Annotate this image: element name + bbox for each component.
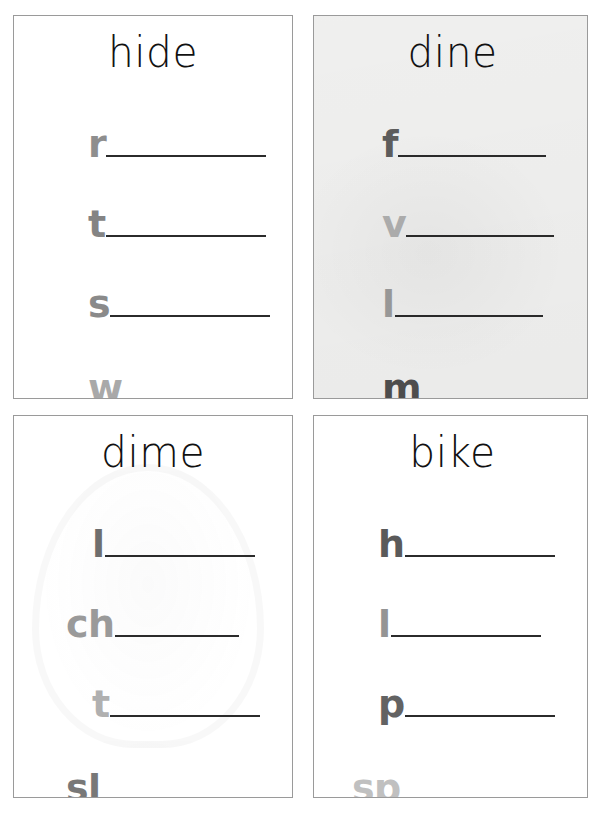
writing-blank-line[interactable] (406, 235, 554, 237)
prompt-row: l (314, 266, 587, 322)
letter-prefix: sp (352, 771, 401, 798)
letter-prefix: s (88, 287, 110, 322)
letter-prefix: f (382, 127, 398, 162)
card-title-hide: hide (18, 32, 288, 74)
writing-blank-line[interactable] (398, 155, 546, 157)
prompt-row: t (14, 666, 292, 722)
writing-blank-line[interactable] (110, 315, 270, 317)
letter-prefix: h (378, 527, 405, 562)
prompt-row: ch (14, 586, 292, 642)
writing-blank-line[interactable] (105, 555, 255, 557)
writing-blank-line[interactable] (110, 715, 260, 717)
letter-prefix: v (382, 207, 406, 242)
card-title-bike: bike (322, 432, 583, 474)
prompt-row: w (14, 350, 292, 399)
prompt-row: r (14, 106, 292, 162)
word-family-card-dime: dime l ch t sl (13, 415, 293, 798)
letter-prefix: t (92, 687, 110, 722)
prompt-row: v (314, 186, 587, 242)
prompt-row: h (314, 506, 587, 562)
word-family-card-dine: dine f v l m (313, 15, 588, 399)
prompt-row: sl (14, 750, 292, 798)
writing-blank-line[interactable] (106, 235, 266, 237)
worksheet-page: hide r t s w dine f v l (0, 0, 606, 813)
prompt-rows-hide: r t s w (14, 102, 292, 390)
prompt-row: f (314, 106, 587, 162)
writing-blank-line[interactable] (106, 155, 266, 157)
card-title-dine: dine (322, 32, 583, 74)
prompt-rows-dime: l ch t sl (14, 502, 292, 789)
word-family-card-hide: hide r t s w (13, 15, 293, 399)
letter-prefix: p (378, 687, 405, 722)
writing-blank-line[interactable] (115, 635, 239, 637)
letter-prefix: ch (66, 607, 115, 642)
letter-prefix: m (382, 371, 421, 399)
card-title-dime: dime (18, 432, 288, 474)
letter-prefix: l (92, 527, 105, 562)
letter-prefix: w (88, 371, 123, 399)
letter-prefix: r (88, 127, 106, 162)
writing-blank-line[interactable] (405, 715, 555, 717)
writing-blank-line[interactable] (395, 315, 543, 317)
writing-blank-line[interactable] (405, 555, 555, 557)
prompt-row: s (14, 266, 292, 322)
word-family-card-bike: bike h l p sp (313, 415, 588, 798)
prompt-row: m (314, 350, 587, 399)
letter-prefix: l (382, 287, 395, 322)
prompt-rows-bike: h l p sp (314, 502, 587, 789)
letter-prefix: l (378, 607, 391, 642)
prompt-rows-dine: f v l m (314, 102, 587, 390)
prompt-row: p (314, 666, 587, 722)
prompt-row: sp (314, 750, 587, 798)
prompt-row: t (14, 186, 292, 242)
letter-prefix: sl (66, 771, 101, 798)
letter-prefix: t (88, 207, 106, 242)
prompt-row: l (14, 506, 292, 562)
prompt-row: l (314, 586, 587, 642)
writing-blank-line[interactable] (391, 635, 541, 637)
